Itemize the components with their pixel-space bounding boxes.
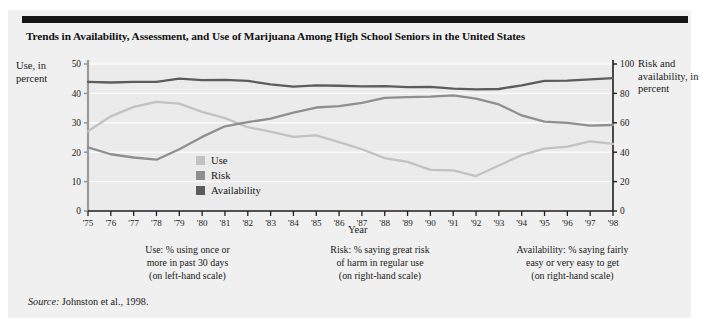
x-axis-tick-label: '94: [516, 218, 527, 228]
caption-line: Availability: % saying fairly: [485, 243, 660, 256]
chart-legend: UseRiskAvailability: [196, 153, 261, 198]
x-axis-tick-label: '81: [220, 218, 231, 228]
x-axis-tick-label: '93: [494, 218, 505, 228]
caption-block-0: Use: % using once ormore in past 30 days…: [100, 243, 275, 282]
legend-item-availability: Availability: [196, 183, 261, 198]
source-note: Source: Johnston et al., 1998.: [28, 296, 148, 307]
x-axis-tick-label: '85: [311, 218, 322, 228]
caption-line: easy or very easy to get: [485, 256, 660, 269]
y-axis-left-tick-label: 30: [72, 118, 82, 128]
y-axis-left-tick-label: 10: [72, 177, 82, 187]
y-axis-left-tick-label: 40: [72, 89, 82, 99]
y-axis-left-tick-label: 50: [72, 59, 82, 69]
caption-line: of harm in regular use: [293, 256, 468, 269]
caption-line: Risk: % saying great risk: [293, 243, 468, 256]
x-axis-tick-label: '79: [174, 218, 185, 228]
x-axis-tick-label: '75: [83, 218, 94, 228]
caption-group: Use: % using once ormore in past 30 days…: [100, 243, 660, 282]
x-axis-tick-label: '80: [197, 218, 208, 228]
x-axis-tick-label: '88: [379, 218, 390, 228]
legend-item-label: Risk: [211, 170, 230, 181]
legend-swatch-icon: [196, 156, 205, 165]
caption-block-1: Risk: % saying great riskof harm in regu…: [293, 243, 468, 282]
y-axis-right-tick-label: 100: [620, 59, 634, 69]
x-axis-tick-label: '98: [608, 218, 619, 228]
x-axis-tick-label: '96: [562, 218, 573, 228]
x-axis-tick-label: '92: [471, 218, 482, 228]
legend-swatch-icon: [196, 186, 205, 195]
x-axis-tick-label: '86: [334, 218, 345, 228]
caption-line: more in past 30 days: [100, 256, 275, 269]
y-axis-left-tick-label: 20: [72, 148, 82, 158]
x-axis-tick-label: '90: [425, 218, 436, 228]
caption-block-2: Availability: % saying fairlyeasy or ver…: [485, 243, 660, 282]
legend-item-label: Availability: [211, 185, 261, 196]
y-axis-right-tick-label: 40: [620, 148, 630, 158]
x-axis-tick-label: '87: [357, 218, 368, 228]
x-axis-tick-label: '97: [585, 218, 596, 228]
x-axis-tick-label: '76: [105, 218, 116, 228]
x-axis-tick-label: '78: [151, 218, 162, 228]
legend-item-risk: Risk: [196, 168, 261, 183]
caption-line: (on left-hand scale): [100, 269, 275, 282]
y-axis-right-tick-label: 80: [620, 89, 630, 99]
x-axis-tick-label: '84: [288, 218, 299, 228]
x-axis-tick-label: '91: [448, 218, 459, 228]
y-axis-right-tick-label: 60: [620, 118, 630, 128]
x-axis-tick-label: '89: [402, 218, 413, 228]
source-label: Source:: [28, 296, 59, 307]
legend-swatch-icon: [196, 171, 205, 180]
legend-item-label: Use: [211, 155, 227, 166]
caption-line: (on right-hand scale): [485, 269, 660, 282]
caption-line: Use: % using once or: [100, 243, 275, 256]
caption-line: (on right-hand scale): [293, 269, 468, 282]
x-axis-tick-label: '82: [242, 218, 253, 228]
y-axis-right-tick-label: 20: [620, 177, 630, 187]
x-axis-tick-label: '95: [539, 218, 550, 228]
figure-root: Trends in Availability, Assessment, and …: [0, 0, 722, 329]
x-axis-tick-label: '83: [265, 218, 276, 228]
legend-item-use: Use: [196, 153, 261, 168]
y-axis-left-tick-label: 0: [76, 206, 81, 216]
y-axis-right-tick-label: 0: [620, 206, 625, 216]
x-axis-tick-label: '77: [128, 218, 139, 228]
source-text: Johnston et al., 1998.: [59, 296, 148, 307]
